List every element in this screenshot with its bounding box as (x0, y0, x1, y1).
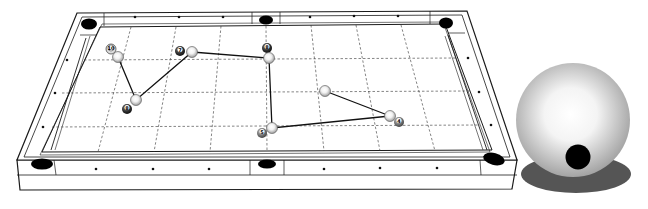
cue-ball-position-3 (187, 47, 198, 58)
cue-ball-position-5 (267, 123, 278, 134)
pocket-top-right (439, 18, 453, 29)
svg-text:5: 5 (260, 129, 264, 135)
billiards-diagram: 10 7 8 8 5 4 (0, 0, 648, 209)
ball-8-left: 8 (122, 104, 132, 114)
ball-7: 7 (175, 46, 185, 56)
cue-ball-position-4 (264, 53, 275, 64)
svg-text:8: 8 (125, 105, 129, 111)
svg-text:10: 10 (108, 45, 115, 51)
cue-ball-inset (516, 63, 631, 193)
pocket-bottom-left (31, 159, 53, 170)
cue-ball-position-6 (385, 111, 396, 122)
cue-tip-position-icon (566, 145, 591, 170)
pocket-top-center (259, 16, 273, 25)
ball-4: 4 (394, 117, 404, 127)
ball-5: 5 (257, 128, 267, 138)
cue-ball-position-2 (131, 95, 142, 106)
cue-ball-position-1 (113, 52, 124, 63)
svg-text:4: 4 (397, 118, 401, 124)
cue-ball-position-7 (320, 86, 331, 97)
pocket-top-left (81, 19, 97, 30)
svg-text:7: 7 (178, 47, 182, 53)
pocket-bottom-center (258, 160, 276, 169)
svg-text:8: 8 (265, 44, 269, 50)
ball-8-top: 8 (262, 43, 272, 53)
